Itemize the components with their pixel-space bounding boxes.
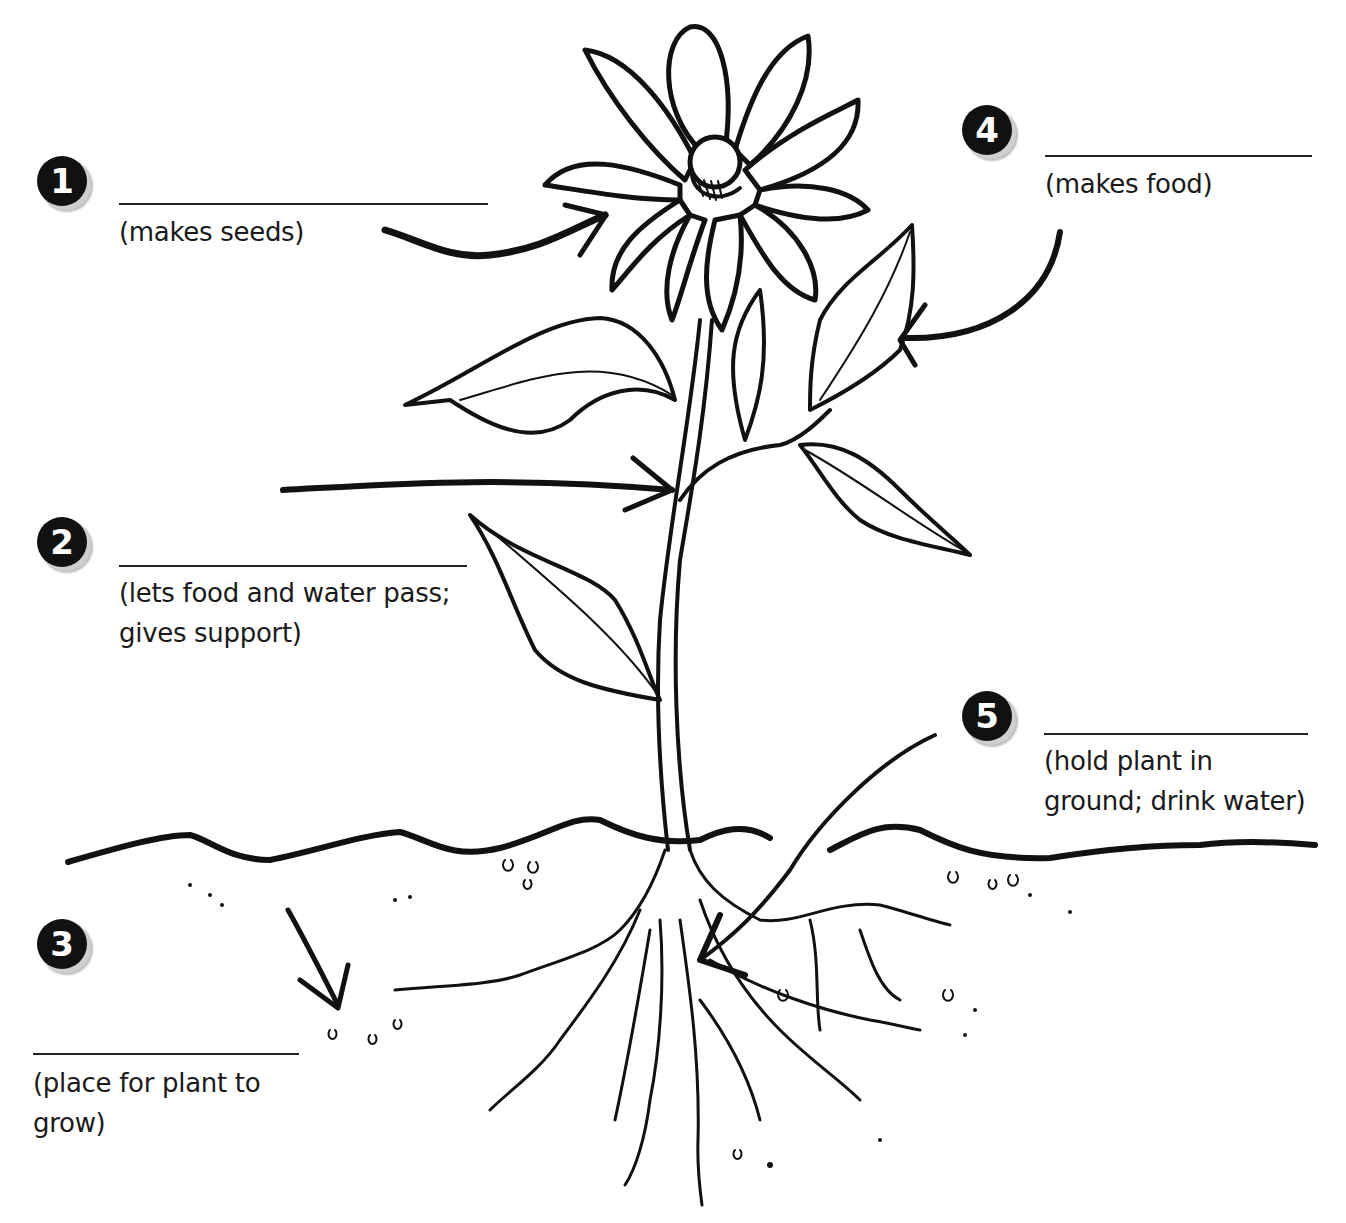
roots [395,850,950,1205]
label-badge-3: 3 [37,919,87,969]
hint-text-2: (lets food and water pass; gives support… [119,573,450,653]
arrow-to-roots [700,735,935,960]
hint-text-4: (makes food) [1045,164,1212,204]
soil-dots [188,883,1072,1168]
answer-blank-2[interactable] [119,565,467,567]
arrow-to-flower [385,215,605,256]
hint-text-3: (place for plant to grow) [33,1063,260,1143]
answer-blank-5[interactable] [1044,733,1308,735]
leaves [405,225,970,700]
answer-blank-1[interactable] [119,203,488,205]
label-badge-4: 4 [962,105,1012,155]
hint-text-1: (makes seeds) [119,212,304,252]
arrow-to-leaf [905,232,1060,338]
soil-specks [329,860,1019,1159]
answer-blank-4[interactable] [1045,155,1312,157]
arrow-to-stem [283,482,672,490]
label-badge-2: 2 [37,517,87,567]
hint-text-5: (hold plant in ground; drink water) [1044,741,1305,821]
flower [545,26,868,330]
stem [658,320,830,850]
answer-blank-3[interactable] [33,1053,299,1055]
label-badge-1: 1 [37,156,87,206]
label-badge-5: 5 [962,691,1012,741]
